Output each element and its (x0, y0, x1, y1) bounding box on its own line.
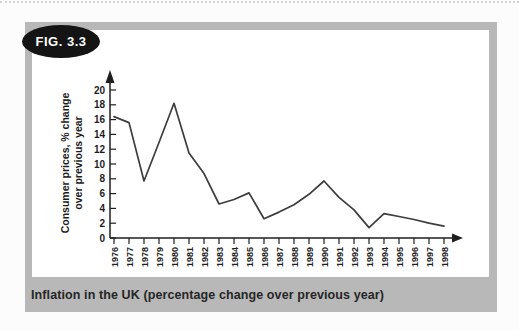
x-tick-label-year: 1987 (275, 247, 285, 267)
x-tick-label-year: 1979 (155, 247, 165, 267)
frame-left-bar (25, 30, 32, 277)
x-axis-arrow (452, 234, 463, 243)
x-tick-label-year: 1994 (380, 247, 390, 267)
y-tick-label: 12 (94, 144, 106, 155)
caption-bar: Inflation in the UK (percentage change o… (25, 277, 497, 312)
x-tick-label-year: 1996 (410, 247, 420, 267)
y-tick-label: 6 (99, 188, 105, 199)
figure-badge-label: FIG. 3.3 (36, 34, 87, 49)
frame-top-bar (25, 22, 497, 30)
y-tick-label: 4 (99, 203, 105, 214)
x-tick-label-year: 1982 (200, 247, 210, 267)
x-tick-label-year: 1992 (350, 247, 360, 267)
y-tick-label: 18 (94, 99, 106, 110)
x-tick-label-year: 1978 (140, 247, 150, 267)
page-top-dotted-rule (0, 1, 519, 3)
x-tick-label-year: 1980 (170, 247, 180, 267)
y-axis-arrow (106, 70, 115, 83)
x-tick-label-year: 1985 (245, 247, 255, 267)
x-tick-label-year: 1989 (305, 247, 315, 267)
x-tick-label-year: 1988 (290, 247, 300, 267)
y-tick-label: 16 (94, 114, 106, 125)
x-tick-label-year: 1984 (230, 247, 240, 267)
x-tick-label-year: 1976 (110, 247, 120, 267)
x-tick-label-year: 1990 (320, 247, 330, 267)
x-tick-label-year: 1995 (395, 247, 405, 267)
x-tick-label-year: 1998 (440, 247, 450, 267)
y-tick-label: 2 (99, 218, 105, 229)
inflation-line-series (114, 103, 444, 227)
y-tick-label: 8 (99, 173, 105, 184)
x-tick-label-year: 1993 (365, 247, 375, 267)
figure-badge: FIG. 3.3 (22, 25, 100, 58)
figure-caption: Inflation in the UK (percentage change o… (25, 288, 384, 302)
y-tick-label: 10 (94, 159, 106, 170)
y-axis-title-line-2: over previous year (72, 116, 84, 209)
x-tick-label-year: 1983 (215, 247, 225, 267)
y-tick-label: 14 (94, 129, 106, 140)
y-tick-label: 20 (94, 85, 106, 96)
x-tick-label-year: 1977 (125, 247, 135, 267)
x-tick-label-year: 1997 (425, 247, 435, 267)
inflation-line-chart: 0246810121416182019761977197819791980198… (32, 30, 489, 277)
plot-area: 0246810121416182019761977197819791980198… (32, 30, 489, 277)
x-tick-label-year: 1991 (335, 247, 345, 267)
y-tick-label: 0 (99, 233, 105, 244)
x-tick-label-year: 1981 (185, 247, 195, 267)
x-tick-label-year: 1986 (260, 247, 270, 267)
y-axis-title-line-1: Consumer prices, % change (59, 93, 71, 234)
frame-right-bar (489, 30, 497, 277)
